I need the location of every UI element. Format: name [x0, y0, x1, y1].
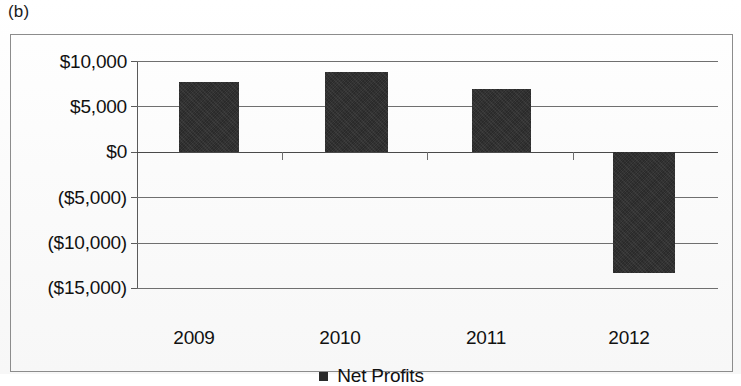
bar-2009: [179, 82, 239, 152]
y-axis-label-5: ($15,000): [11, 277, 127, 299]
gridline-10000: [137, 61, 718, 62]
bar-2011: [472, 89, 531, 152]
legend-swatch-net-profits: [319, 372, 328, 381]
bar-2012: [613, 152, 675, 274]
bar-2010: [325, 72, 388, 152]
y-axis-label-4: ($10,000): [11, 232, 127, 254]
x-axis-label-2009: 2009: [149, 327, 239, 349]
y-axis-label-2: $0: [11, 141, 127, 163]
y-axis-label-1: $5,000: [11, 96, 127, 118]
gridline-neg15000: [137, 288, 718, 289]
chart-legend: Net Profits: [11, 365, 732, 386]
chart-frame: $10,000 $5,000 $0 ($5,000) ($10,000) ($1…: [10, 34, 733, 372]
legend-label-net-profits: Net Profits: [337, 365, 424, 386]
x-axis-tick-3: [573, 152, 574, 160]
x-axis-label-2011: 2011: [441, 327, 531, 349]
y-axis-label-0: $10,000: [11, 51, 127, 73]
x-axis-label-2012: 2012: [584, 327, 674, 349]
x-axis-label-2010: 2010: [295, 327, 385, 349]
y-axis-label-3: ($5,000): [11, 187, 127, 209]
x-axis-tick-1: [282, 152, 283, 160]
plot-area: [137, 61, 718, 288]
x-axis-tick-2: [427, 152, 428, 160]
panel-label: (b): [8, 2, 29, 22]
